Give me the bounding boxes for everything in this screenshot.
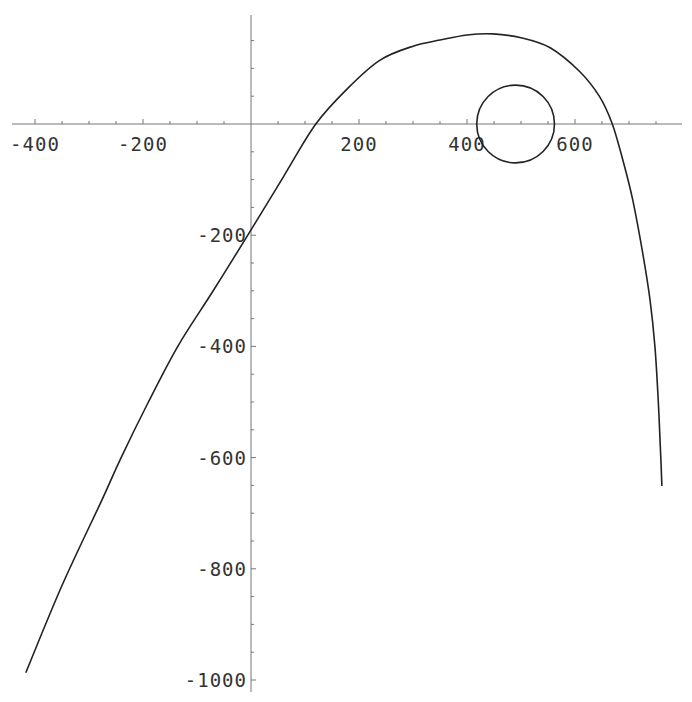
x-tick-label: 400: [448, 133, 485, 155]
y-tick-label: -200: [197, 224, 247, 246]
x-tick-label: 200: [340, 133, 377, 155]
y-tick-label: -600: [197, 447, 247, 469]
y-tick-label: -1000: [185, 669, 247, 691]
parametric-curve: [26, 34, 662, 673]
x-tick-label: 600: [556, 133, 593, 155]
x-tick-label: -400: [10, 133, 60, 155]
x-tick-label: -200: [118, 133, 168, 155]
axes: [12, 15, 682, 692]
chart: -400-200200400600 -200-400-600-800-1000: [0, 0, 692, 702]
y-tick-label: -400: [197, 335, 247, 357]
x-tick-labels: -400-200200400600: [10, 133, 594, 155]
y-tick-label: -800: [197, 558, 247, 580]
y-tick-labels: -200-400-600-800-1000: [185, 224, 247, 691]
